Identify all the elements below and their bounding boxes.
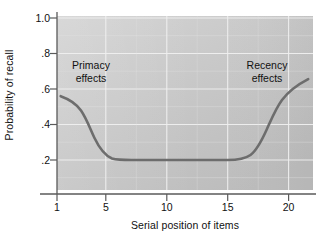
annotation-primacy-effects: Primacy effects <box>58 59 124 84</box>
annotation-recency-effects: Recency effects <box>234 59 300 84</box>
y-tick-label-0-6: .6 <box>20 84 50 95</box>
x-tick-label-1: 1 <box>42 201 72 213</box>
x-tick-label-15: 15 <box>213 201 243 213</box>
x-tick-label-20: 20 <box>274 201 304 213</box>
x-axis-tick-labels: 1 5 10 15 20 <box>0 201 326 217</box>
serial-position-chart: Probability of recall 1.0 .8 .6 .4 .2 1 … <box>0 0 326 241</box>
y-axis-ticks <box>50 18 57 160</box>
annotation-recency-line2: effects <box>234 72 300 85</box>
x-axis-title: Serial position of items <box>55 219 315 231</box>
y-tick-label-0-8: .8 <box>20 48 50 59</box>
x-axis-ticks <box>57 194 289 201</box>
y-tick-label-0-4: .4 <box>20 119 50 130</box>
x-tick-label-5: 5 <box>91 201 121 213</box>
annotation-primacy-line2: effects <box>58 72 124 85</box>
annotation-recency-line1: Recency <box>234 59 300 72</box>
y-tick-label-1-0: 1.0 <box>20 13 50 24</box>
y-axis-tick-labels: 1.0 .8 .6 .4 .2 <box>16 0 50 200</box>
plot-area-background <box>57 16 313 190</box>
y-tick-label-0-2: .2 <box>20 155 50 166</box>
annotation-primacy-line1: Primacy <box>58 59 124 72</box>
y-axis-title-text: Probability of recall <box>3 50 15 141</box>
x-tick-label-10: 10 <box>152 201 182 213</box>
